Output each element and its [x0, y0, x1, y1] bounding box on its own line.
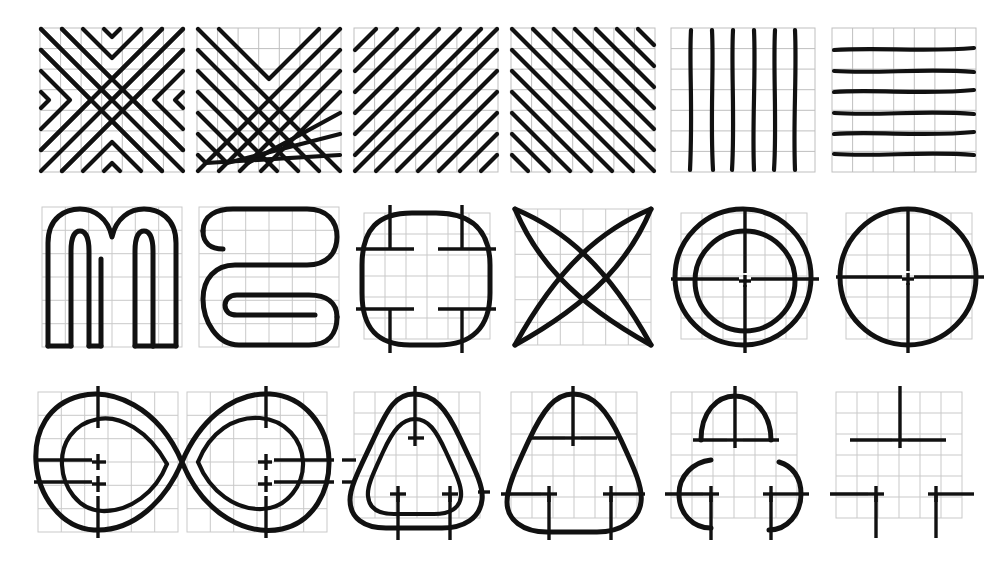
serpentine-s-outline: [195, 203, 343, 355]
concentric-circles: [669, 203, 821, 355]
right-arc-stroke: [769, 462, 801, 530]
horizontal-lines: [830, 26, 978, 174]
chevron-strokes: [198, 29, 340, 171]
graph-grid: [515, 209, 651, 345]
four-arc-star: [509, 203, 657, 355]
letter-m-outline: [38, 203, 186, 355]
v-chevron-pattern: [195, 26, 343, 174]
letter-and-shape-row: [0, 203, 977, 355]
ticks-only: [824, 382, 976, 542]
rounded-square: [352, 203, 500, 355]
x-chevron-pattern: [38, 26, 186, 174]
horizontal-strokes: [834, 48, 974, 155]
diagonal-strokes: [355, 29, 497, 171]
diagonal-down-hatching: [509, 26, 657, 174]
single-circle: [834, 203, 986, 355]
chevron-strokes: [41, 29, 183, 171]
registration-ticks: [830, 386, 974, 538]
concentric-rounded-triangles: [342, 382, 490, 542]
partial-arcs: [659, 382, 811, 542]
graph-grid: [364, 213, 490, 339]
rounded-triangle: [499, 382, 647, 542]
diagonal-strokes: [512, 29, 654, 171]
registration-ticks: [501, 386, 645, 540]
vertical-lines: [669, 26, 817, 174]
diagonal-up-hatching: [352, 26, 500, 174]
line-pattern-row: [0, 26, 977, 174]
rounded-square-stroke: [362, 213, 490, 345]
graph-grid: [199, 207, 339, 347]
graph-grid: [42, 207, 182, 347]
vertical-strokes: [690, 30, 796, 170]
progressive-shape-row: [0, 382, 977, 542]
infinity-loop: [30, 382, 335, 542]
